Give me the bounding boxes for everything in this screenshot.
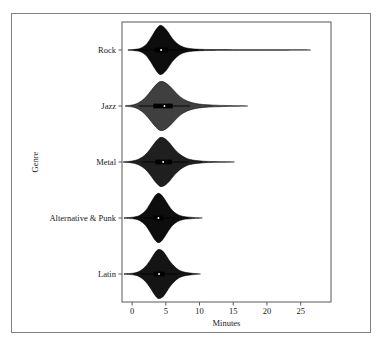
- violin-latin: [124, 249, 200, 298]
- violin-plot-figure: 0510152025RockJazzMetalAlternative & Pun…: [0, 0, 383, 347]
- boxplot-median-0: [160, 49, 162, 51]
- y-tick-label-metal: Metal: [96, 157, 116, 167]
- violin-jazz: [125, 81, 247, 130]
- violin-metal: [123, 137, 234, 186]
- x-tick-label-20: 20: [263, 306, 272, 316]
- violins-group: [123, 25, 310, 298]
- y-tick-label-rock: Rock: [98, 45, 117, 55]
- violin-rock: [128, 25, 311, 74]
- x-tick-label-10: 10: [195, 306, 204, 316]
- y-tick-label-alternative-punk: Alternative & Punk: [49, 213, 116, 223]
- boxplot-median-4: [158, 273, 160, 275]
- x-tick-label-5: 5: [164, 306, 168, 316]
- boxplot-median-1: [164, 105, 166, 107]
- y-tick-label-jazz: Jazz: [101, 101, 116, 111]
- x-tick-label-25: 25: [296, 306, 305, 316]
- y-tick-label-latin: Latin: [98, 269, 117, 279]
- boxplot-median-3: [157, 217, 159, 219]
- violin-alternative-punk: [124, 193, 202, 242]
- x-tick-label-0: 0: [130, 306, 134, 316]
- violin-plot-canvas: 0510152025RockJazzMetalAlternative & Pun…: [0, 0, 383, 347]
- y-axis-title: Genre: [30, 151, 40, 172]
- boxplot-box-1: [154, 104, 173, 108]
- x-axis-title: Minutes: [213, 318, 241, 328]
- x-tick-label-15: 15: [229, 306, 238, 316]
- boxplot-median-2: [162, 161, 164, 163]
